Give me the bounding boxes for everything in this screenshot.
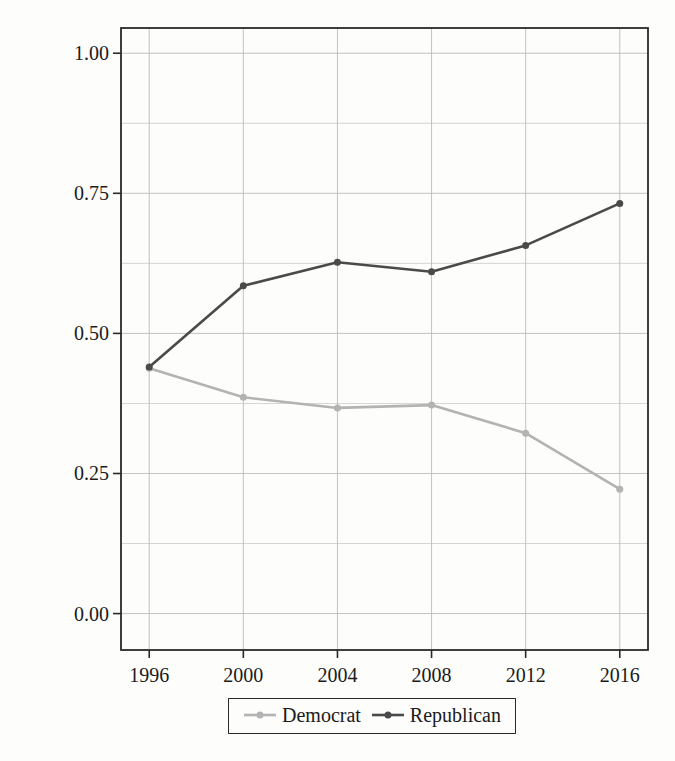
data-point-democrat-2000 [240,394,247,401]
legend-label-republican: Republican [410,704,501,727]
series-line-republican [149,203,620,367]
data-point-republican-2004 [334,259,341,266]
data-point-republican-2016 [616,200,623,207]
plot-frame [121,28,648,650]
data-point-democrat-2012 [522,430,529,437]
data-point-republican-2008 [428,268,435,275]
legend-marker-democrat-icon [243,708,277,722]
legend-label-democrat: Democrat [282,704,361,727]
data-point-democrat-2016 [616,486,623,493]
chart-page: Avg. Presidential Vote (County) 0.000.25… [0,0,675,761]
data-point-democrat-2004 [334,404,341,411]
series-line-democrat [149,368,620,489]
chart-legend: DemocratRepublican [228,698,516,734]
plot-area [0,0,675,761]
legend-marker-republican-icon [371,708,405,722]
data-point-republican-2012 [522,242,529,249]
legend-entry-democrat[interactable]: Democrat [243,704,361,727]
data-point-republican-2000 [240,282,247,289]
line-chart-figure: Avg. Presidential Vote (County) 0.000.25… [0,0,675,761]
data-point-republican-1996 [146,364,153,371]
data-point-democrat-2008 [428,402,435,409]
legend-entry-republican[interactable]: Republican [371,704,501,727]
